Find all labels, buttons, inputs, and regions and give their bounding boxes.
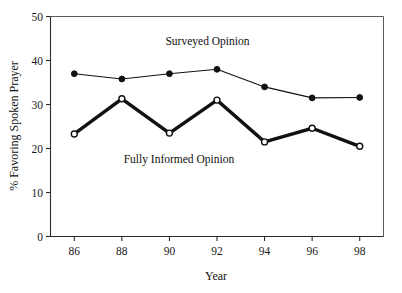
plot-axes xyxy=(51,17,384,237)
series-lines xyxy=(74,69,359,146)
series-label-2: Fully Informed Opinion xyxy=(124,153,235,166)
data-point xyxy=(309,95,315,101)
y-axis-tick-labels: 01020304050 xyxy=(32,11,44,243)
y-tick-label: 0 xyxy=(37,231,43,243)
chart-container: 01020304050 86889092949698 Surveyed Opin… xyxy=(0,0,402,293)
y-tick-label: 40 xyxy=(32,55,44,67)
data-point xyxy=(309,125,315,131)
data-point xyxy=(357,95,363,101)
data-point xyxy=(71,71,77,77)
y-tick-label: 20 xyxy=(32,143,44,155)
x-axis-tick-labels: 86889092949698 xyxy=(69,245,366,257)
x-tick-label: 96 xyxy=(306,245,318,257)
data-point xyxy=(119,76,125,82)
data-point xyxy=(357,143,363,149)
x-tick-label: 90 xyxy=(164,245,176,257)
data-point xyxy=(214,66,220,72)
line-chart: 01020304050 86889092949698 Surveyed Opin… xyxy=(0,0,402,293)
data-point xyxy=(214,97,220,103)
y-tick-label: 30 xyxy=(32,99,44,111)
y-tick-label: 10 xyxy=(32,187,44,199)
data-point xyxy=(166,130,172,136)
series-markers xyxy=(71,66,362,149)
plot-frame xyxy=(51,17,384,237)
y-tick-label: 50 xyxy=(32,11,44,23)
data-point xyxy=(167,71,173,77)
x-axis-title: Year xyxy=(205,269,227,283)
x-tick-label: 92 xyxy=(211,245,223,257)
x-tick-label: 94 xyxy=(259,245,271,257)
series-line-2 xyxy=(74,99,359,147)
data-point xyxy=(119,96,125,102)
data-point xyxy=(262,84,268,90)
y-axis-title: % Favoring Spoken Prayer xyxy=(7,61,21,191)
series-line-1 xyxy=(74,69,359,98)
series-annotations: Surveyed OpinionFully Informed Opinion xyxy=(124,35,250,166)
series-label-1: Surveyed Opinion xyxy=(165,35,249,48)
data-point xyxy=(71,131,77,137)
x-tick-label: 88 xyxy=(116,245,128,257)
x-tick-label: 98 xyxy=(354,245,366,257)
data-point xyxy=(262,139,268,145)
plot-frame-outline xyxy=(51,17,384,237)
x-tick-label: 86 xyxy=(69,245,81,257)
